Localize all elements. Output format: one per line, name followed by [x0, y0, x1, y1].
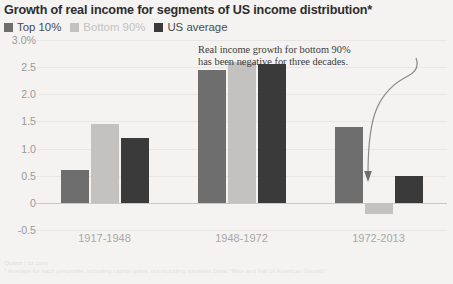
- bar: [258, 64, 286, 202]
- y-axis-tick-label: 2.5: [21, 62, 36, 72]
- legend-item-bottom90: Bottom 90%: [70, 21, 145, 33]
- grid-line: [36, 230, 447, 231]
- bar-group: [61, 40, 149, 230]
- y-axis-tick-label: 2.0: [21, 89, 36, 99]
- bar: [228, 62, 256, 203]
- y-axis-tick-label: 0.5: [21, 171, 36, 181]
- y-axis-labels: 3.0%2.52.01.51.00.50-0.5: [4, 40, 38, 230]
- bar: [61, 170, 89, 203]
- y-axis-tick-label: 1.5: [21, 116, 36, 126]
- legend-item-top10: Top 10%: [4, 21, 61, 33]
- legend-label-bottom90: Bottom 90%: [83, 21, 145, 33]
- legend-swatch-bottom90: [70, 23, 79, 32]
- bar: [121, 138, 149, 203]
- chart-title: Growth of real income for segments of US…: [4, 3, 372, 17]
- x-axis-tick-label: 1948-1972: [173, 232, 310, 244]
- legend-swatch-top10: [4, 23, 13, 32]
- chart-container: Growth of real income for segments of US…: [0, 0, 453, 284]
- legend-label-us-average: US average: [167, 21, 227, 33]
- y-axis-tick-label: -0.5: [18, 225, 36, 235]
- y-axis-tick-label: 1.0: [21, 144, 36, 154]
- chart-legend: Top 10% Bottom 90% US average: [4, 21, 237, 33]
- y-axis-tick-label: 3.0%: [12, 35, 36, 45]
- chart-footer: Quartz | qz.com * Average for each perce…: [4, 259, 450, 274]
- bar: [365, 203, 393, 214]
- legend-label-top10: Top 10%: [17, 21, 61, 33]
- bar: [91, 124, 119, 203]
- x-axis-tick-label: 1917-1948: [36, 232, 173, 244]
- legend-item-us-average: US average: [154, 21, 227, 33]
- footnote-text: * Average for each percentile, including…: [4, 267, 450, 275]
- source-credit: Quartz | qz.com: [4, 259, 450, 267]
- annotation-arrow-icon: [300, 52, 420, 187]
- legend-swatch-us-average: [154, 23, 163, 32]
- x-axis-labels: 1917-19481948-19721972-2013: [36, 232, 447, 248]
- bar-group: [198, 40, 286, 230]
- bar: [198, 70, 226, 203]
- x-axis-tick-label: 1972-2013: [310, 232, 447, 244]
